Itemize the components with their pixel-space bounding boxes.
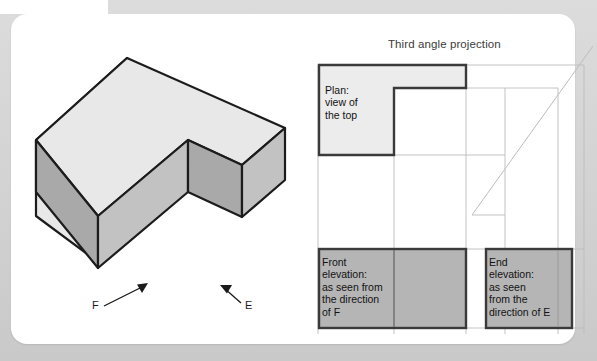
direction-label-f: F [92, 299, 99, 311]
figure-root: Third angle projection Plan: view of the… [0, 0, 597, 361]
isometric-block [36, 58, 285, 268]
direction-arrow-e [220, 285, 241, 303]
direction-arrow-f [104, 283, 148, 306]
end-elevation-label: End elevation: as seen from the directio… [489, 256, 573, 318]
miter-line-45 [472, 46, 593, 215]
plan-view-label: Plan: view of the top [325, 84, 395, 121]
front-elevation-label: Front elevation: as seen from the direct… [322, 256, 408, 318]
direction-label-e: E [245, 299, 252, 311]
figure-title: Third angle projection [388, 38, 501, 50]
